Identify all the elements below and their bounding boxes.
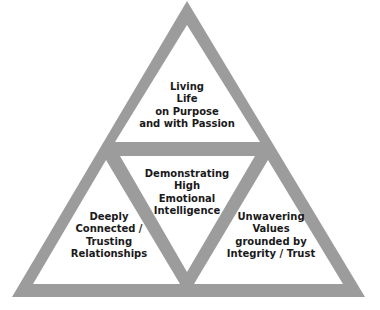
bottom-right-section-label: Unwavering Values grounded by Integrity …: [227, 211, 315, 261]
top-line-4: and with Passion: [139, 118, 235, 130]
bottom-left-line-3: Trusting: [71, 236, 147, 248]
top-line-1: Living: [139, 81, 235, 93]
bottom-left-line-4: Relationships: [71, 248, 147, 260]
bottom-left-section-label: Deeply Connected / Trusting Relationship…: [71, 211, 147, 261]
center-section-label: Demonstrating High Emotional Intelligenc…: [145, 168, 229, 218]
top-section-label: Living Life on Purpose and with Passion: [139, 81, 235, 131]
top-line-3: on Purpose: [139, 106, 235, 118]
bottom-right-line-3: grounded by: [227, 236, 315, 248]
center-line-4: Intelligence: [145, 205, 229, 217]
bottom-right-line-1: Unwavering: [227, 211, 315, 223]
bottom-right-line-4: Integrity / Trust: [227, 248, 315, 260]
top-line-2: Life: [139, 93, 235, 105]
bottom-left-line-2: Connected /: [71, 223, 147, 235]
bottom-left-line-1: Deeply: [71, 211, 147, 223]
center-line-3: Emotional: [145, 193, 229, 205]
center-line-2: High: [145, 180, 229, 192]
bottom-right-line-2: Values: [227, 223, 315, 235]
triangle-diagram: [0, 0, 380, 310]
center-line-1: Demonstrating: [145, 168, 229, 180]
